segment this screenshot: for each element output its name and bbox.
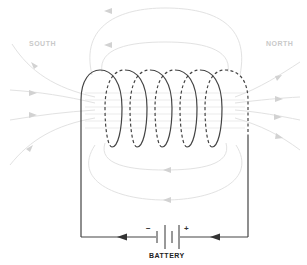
current-arrow-left-icon <box>210 234 220 241</box>
current-arrow-left-icon <box>117 234 127 241</box>
arrow-right-icon <box>275 75 282 81</box>
field-lines-south <box>10 44 95 165</box>
field-line <box>10 118 95 165</box>
field-line <box>235 118 300 150</box>
arrow-right-icon <box>275 133 283 139</box>
positive-terminal-label: + <box>184 224 189 233</box>
field-arrows-north <box>274 75 283 139</box>
field-line <box>90 8 242 75</box>
north-pole-label: NORTH <box>266 40 293 47</box>
field-lines-bottom <box>89 143 242 200</box>
battery-icon <box>157 225 179 249</box>
coil-front-arc <box>125 70 147 147</box>
arrow-left-icon <box>163 167 171 173</box>
negative-terminal-label: − <box>146 224 151 233</box>
coil-front-arc <box>175 70 197 147</box>
arrow-right-icon <box>274 114 282 120</box>
arrow-left-icon <box>163 197 171 203</box>
field-line <box>89 145 242 200</box>
arrow-right-icon <box>275 96 283 102</box>
field-line <box>10 90 95 103</box>
battery-label: BATTERY <box>149 252 185 259</box>
arrow-left-icon <box>104 42 112 48</box>
field-line <box>104 143 227 170</box>
field-line <box>235 110 300 120</box>
field-line <box>102 42 229 72</box>
coil <box>81 70 248 237</box>
field-line <box>235 62 300 97</box>
coil-front-arc <box>150 70 172 147</box>
field-line <box>10 110 95 120</box>
arrow-right-icon <box>29 90 37 96</box>
field-arrows-top <box>104 8 112 48</box>
arrow-right-icon <box>29 112 37 118</box>
field-lines-top <box>90 8 242 75</box>
field-arrows-south <box>26 62 38 152</box>
field-arrows-bottom <box>163 167 171 203</box>
coil-front-arc <box>200 70 222 147</box>
south-pole-label: SOUTH <box>29 40 56 47</box>
arrow-right-icon <box>26 145 33 152</box>
field-lines-north <box>235 62 300 150</box>
arrow-left-icon <box>104 8 112 14</box>
